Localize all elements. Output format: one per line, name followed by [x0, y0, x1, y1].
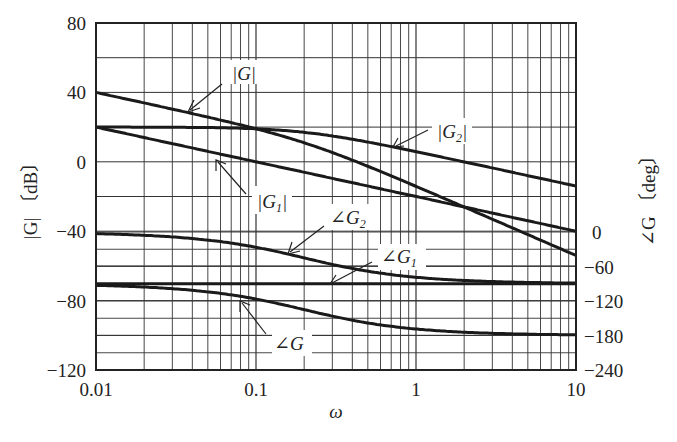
- svg-text:|G2|: |G2|: [437, 121, 467, 145]
- y-left-tick-label: 40: [67, 82, 86, 103]
- y-right-tick-label: −60: [584, 257, 614, 278]
- y-right-tick-label: −180: [584, 326, 623, 347]
- x-tick-label: 0.01: [79, 379, 112, 400]
- svg-text:|G|: |G|: [232, 63, 256, 84]
- y-right-tick-label: −240: [584, 360, 623, 381]
- y-axis-right-label: ∠G 〔deg〕: [638, 146, 659, 246]
- y-right-tick-label: −120: [584, 291, 623, 312]
- series-|G2|: [96, 127, 576, 186]
- bode-plot: 0.010.111080400−40−80−1200−60−120−180−24…: [0, 0, 677, 442]
- y-left-tick-label: 80: [67, 13, 86, 34]
- y-left-tick-label: −40: [56, 221, 86, 242]
- svg-text:∠G: ∠G: [274, 333, 304, 354]
- x-tick-label: 1: [411, 379, 421, 400]
- annotation-mag-G2: |G2|: [393, 118, 472, 147]
- y-left-tick-label: −120: [47, 360, 86, 381]
- series-∠G: [96, 285, 576, 334]
- y-right-tick-label: 0: [592, 222, 602, 243]
- x-tick-label: 10: [567, 379, 586, 400]
- y-axis-left-label: |G| 〔dB〕: [20, 153, 41, 239]
- y-left-tick-label: −80: [56, 291, 86, 312]
- svg-text:|G1|: |G1|: [257, 191, 287, 215]
- annotation-mag-G: |G|: [188, 60, 262, 112]
- x-tick-label: 0.1: [244, 379, 268, 400]
- y-left-tick-label: 0: [77, 152, 87, 173]
- x-axis-label: ω: [329, 401, 342, 422]
